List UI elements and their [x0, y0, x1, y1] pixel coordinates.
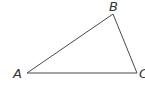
vertex-label-c: C	[139, 66, 145, 81]
vertex-label-a: A	[12, 66, 22, 81]
edge-ab	[27, 14, 113, 73]
edge-bc	[113, 14, 137, 73]
triangle-diagram: A B C	[0, 0, 145, 88]
vertex-label-b: B	[109, 0, 118, 14]
